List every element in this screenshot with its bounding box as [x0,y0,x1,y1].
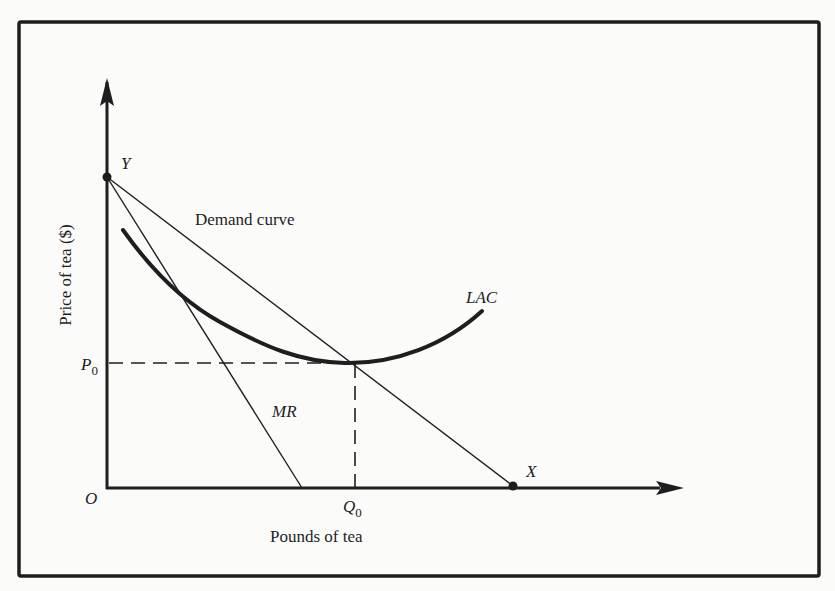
y-axis-label: Price of tea ($) [56,224,75,325]
p0-label-main: P [80,355,91,374]
x-axis-label: Pounds of tea [270,527,363,546]
q0-label-subscript: 0 [355,505,362,520]
p0-label-subscript: 0 [91,363,98,378]
x-axis-arrow-icon [656,481,684,495]
x-intercept-point [509,482,518,491]
y-intercept-point [103,173,112,182]
economics-diagram: Y Demand curve LAC MR X O P0 Q0 Pounds o… [0,0,835,591]
x-intercept-label: X [525,462,537,481]
q0-label: Q0 [343,497,362,520]
figure-frame [19,22,819,576]
origin-label: O [85,489,97,508]
y-intercept-label: Y [121,154,132,173]
mr-label: MR [271,402,297,421]
demand-curve-label: Demand curve [195,210,295,229]
lac-label: LAC [465,288,498,307]
q0-label-main: Q [343,497,355,516]
lac-curve [123,230,482,363]
p0-label: P0 [80,355,98,378]
